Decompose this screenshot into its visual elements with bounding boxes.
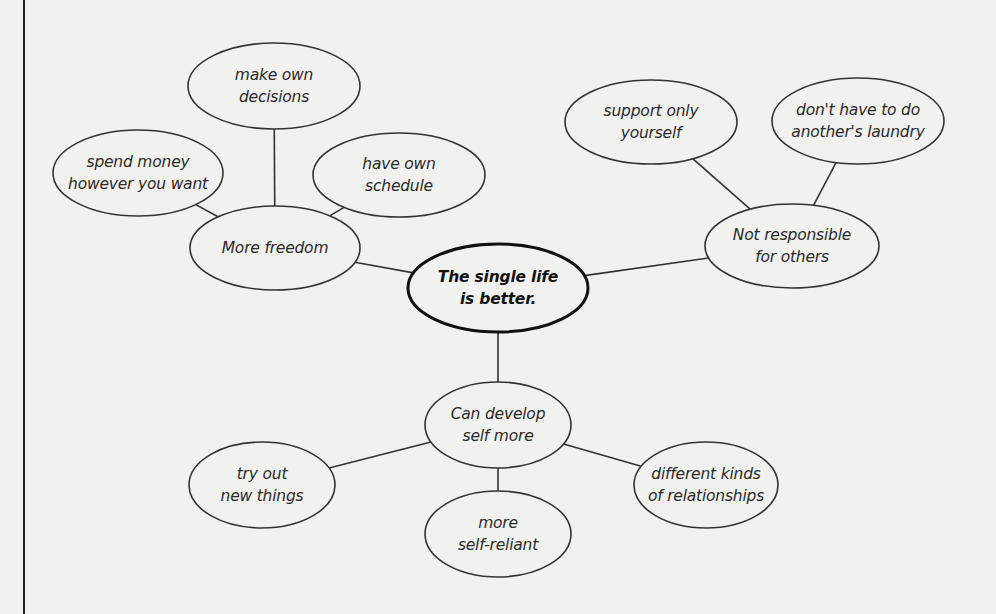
node-text-line: self-reliant (458, 534, 538, 556)
node-label-different-kinds-of-relationships: different kindsof relationships (648, 463, 764, 507)
node-label-not-responsible: Not responsiblefor others (733, 224, 851, 268)
connector-not-responsible-support-only-yourself (693, 159, 750, 209)
connector-more-freedom-spend-money (196, 205, 218, 217)
node-text-line: however you want (68, 173, 208, 195)
node-text-line: schedule (362, 175, 435, 197)
node-label-dont-have-to-do-laundry: don't have to doanother's laundry (791, 99, 924, 143)
node-text-line: more (458, 512, 538, 534)
node-text-line: have own (362, 153, 435, 175)
node-text-line: is better. (438, 288, 558, 310)
node-text-line: spend money (68, 151, 208, 173)
node-text-line: support only (604, 100, 699, 122)
node-text-line: Not responsible (733, 224, 851, 246)
node-text-line: Can develop (451, 403, 546, 425)
node-text-line: decisions (235, 86, 313, 108)
node-label-make-own-decisions: make owndecisions (235, 64, 313, 108)
connector-root-not-responsible (584, 258, 708, 276)
connector-more-freedom-have-own-schedule (330, 207, 344, 216)
node-text-line: different kinds (648, 463, 764, 485)
node-text-line: for others (733, 246, 851, 268)
connector-can-develop-self-try-out-new-things (329, 442, 431, 468)
connector-root-more-freedom (355, 262, 414, 273)
node-label-can-develop-self: Can developself more (451, 403, 546, 447)
node-label-more-freedom: More freedom (222, 237, 329, 259)
node-text-line: The single life (438, 266, 558, 288)
node-label-support-only-yourself: support onlyyourself (604, 100, 699, 144)
node-text-line: self more (451, 425, 546, 447)
node-label-more-self-reliant: moreself-reliant (458, 512, 538, 556)
node-text-line: make own (235, 64, 313, 86)
connector-can-develop-self-different-kinds-of-relationships (564, 444, 642, 466)
node-label-spend-money: spend moneyhowever you want (68, 151, 208, 195)
node-text-line: yourself (604, 122, 699, 144)
node-label-try-out-new-things: try outnew things (221, 463, 304, 507)
node-text-line: another's laundry (791, 121, 924, 143)
node-text-line: try out (221, 463, 304, 485)
node-text-line: new things (221, 485, 304, 507)
node-label-root: The single lifeis better. (438, 266, 558, 310)
node-text-line: don't have to do (791, 99, 924, 121)
node-text-line: of relationships (648, 485, 764, 507)
node-label-have-own-schedule: have ownschedule (362, 153, 435, 197)
node-text-line: More freedom (222, 237, 329, 259)
connector-not-responsible-dont-have-to-do-laundry (813, 163, 836, 206)
